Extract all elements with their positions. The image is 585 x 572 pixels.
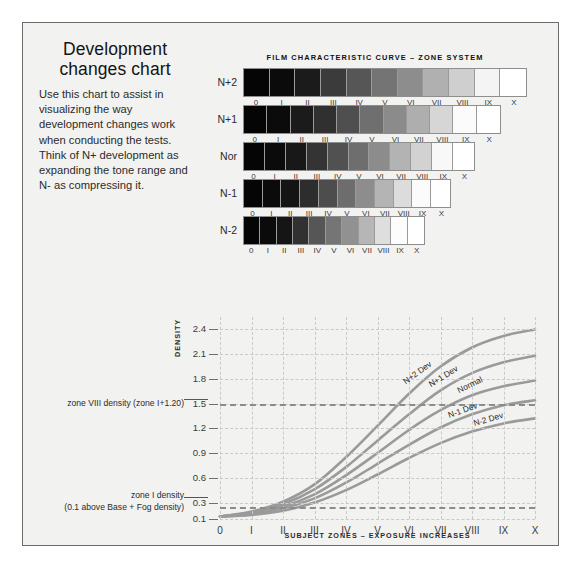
tone-patch [328,143,349,170]
zone-tick-label: VII [359,245,376,257]
gridline-vertical [409,317,410,519]
tone-patch [398,69,424,96]
tone-patch [286,143,307,170]
tone-patch [359,217,375,244]
intro-block: Development changes chart Use this chart… [39,39,191,193]
y-tick-label: 2.1 [193,349,206,359]
tone-patch [295,69,321,96]
zone-tick-label: VI [342,245,359,257]
gridline-horizontal [220,354,535,355]
tone-patch [349,143,370,170]
gridline-horizontal [220,379,535,380]
y-tick-label: 2.4 [193,324,206,334]
strips-title: FILM CHARACTERISTIC CURVE – ZONE SYSTEM [209,53,541,62]
zone-tick-row: 0IIIIIIIVVVIVIIVIIIIXX [243,245,425,257]
y-tick-label: 1.8 [193,374,206,384]
tone-patch [244,217,260,244]
tone-patch [319,180,338,207]
y-tick-mark [209,354,218,355]
annotation-rule [184,497,208,498]
tone-patch-strip [243,68,527,97]
tone-patch [412,180,431,207]
tone-patch [375,217,391,244]
y-tick-label: 1.5 [193,399,206,409]
tone-patch [360,106,383,133]
tone-patch [291,106,314,133]
tone-patch [244,106,267,133]
tone-patch-strip [243,216,425,245]
tone-patch [475,69,501,96]
tone-patch [384,106,407,133]
tone-patch [356,180,375,207]
tone-patch [300,180,319,207]
tone-patch [432,143,453,170]
strip-row-label: N+2 [209,76,237,88]
tone-patch [347,69,373,96]
tone-patch [338,180,357,207]
tone-patch [337,106,360,133]
y-tick-label: 1.2 [193,423,206,433]
tone-patch [375,180,394,207]
tone-patch [270,69,296,96]
tone-patch [372,69,398,96]
tone-patch [453,106,476,133]
strip-row: N-10IIIIIIIVVVIVIIVIIIIXX [209,179,541,215]
strip-row-label: Nor [209,150,237,162]
tone-patch [423,69,449,96]
gridline-horizontal [220,503,535,504]
gridline-vertical [346,317,347,519]
reference-line-label: zone I density [131,490,184,501]
gridline-vertical [315,317,316,519]
tone-patch [321,69,347,96]
y-tick-mark [209,453,218,454]
zone-tick-label: IX [392,245,409,257]
gridline-vertical [220,317,221,519]
gridline-horizontal [220,428,535,429]
tone-patch [260,217,276,244]
gridline-vertical [252,317,253,519]
characteristic-curve-graph: DENSITY 2.42.11.81.51.20.90.60.30.1 0III… [23,299,559,546]
tone-patch [453,143,474,170]
strip-row: Nor0IIIIIIIVVVIVIIVIIIIXX [209,142,541,178]
strip-row-label: N-2 [209,224,237,236]
gridline-horizontal [220,519,535,520]
gridline-vertical [535,317,536,519]
y-tick-mark [209,503,218,504]
strip-row-label: N-1 [209,187,237,199]
gridline-horizontal [220,453,535,454]
tone-patch-strip [243,179,451,208]
tone-patch [244,143,265,170]
tone-patch [277,217,293,244]
tone-patch [244,180,263,207]
reference-line-label: zone VIII density (zone I+1.20) [67,398,184,409]
y-tick-mark [209,519,218,520]
gridline-vertical [441,317,442,519]
gridline-horizontal [220,329,535,330]
page-title: Development changes chart [39,39,191,79]
tone-patch [314,106,337,133]
tone-patch [267,106,290,133]
tone-patch-strip [243,142,475,171]
tone-patch [263,180,282,207]
y-tick-label: 0.6 [193,473,206,483]
y-tick-label: 0.3 [193,498,206,508]
zone-tick-label: III [293,245,310,257]
strip-row-label: N+1 [209,113,237,125]
intro-description: Use this chart to assist in visualizing … [39,87,191,193]
tone-patch [307,143,328,170]
tone-patch [326,217,342,244]
gridline-vertical [378,317,379,519]
tone-patch [281,180,300,207]
y-tick-mark [209,329,218,330]
y-tick-label: 0.9 [193,448,206,458]
zone-tick-label: X [408,245,425,257]
reference-line [220,507,535,509]
y-tick-mark [209,428,218,429]
zone-tick-label: 0 [243,245,260,257]
tone-patch [369,143,390,170]
zone-tick-label: VIII [375,245,392,257]
tone-patch [500,69,526,96]
reference-line [220,404,535,406]
strip-row: N+10IIIIIIIVVVIVIIVIIIIXX [209,105,541,141]
zone-tick-label: IV [309,245,326,257]
